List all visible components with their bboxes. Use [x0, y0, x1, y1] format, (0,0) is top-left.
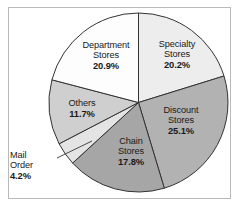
- slice-label-discount-stores: Discount Stores 25.1%: [150, 106, 212, 136]
- slice-label-department-stores: Department Stores 20.9%: [70, 41, 142, 71]
- slice-value-chain-stores: 17.8%: [103, 157, 159, 167]
- slice-value-others: 11.7%: [55, 109, 109, 119]
- slice-label-specialty-stores: Specialty Stores 20.2%: [147, 40, 207, 70]
- slice-label-mail-order: Mail Order 4.2%: [10, 151, 58, 181]
- slice-label-others: Others 11.7%: [55, 99, 109, 119]
- slice-value-specialty-stores: 20.2%: [147, 60, 207, 70]
- slice-value-department-stores: 20.9%: [70, 61, 142, 71]
- slice-value-discount-stores: 25.1%: [150, 126, 212, 136]
- slice-label-chain-stores: Chain Stores 17.8%: [103, 137, 159, 167]
- pie-chart-figure: Specialty Stores 20.2% Department Stores…: [0, 0, 239, 208]
- slice-value-mail-order: 4.2%: [10, 171, 58, 181]
